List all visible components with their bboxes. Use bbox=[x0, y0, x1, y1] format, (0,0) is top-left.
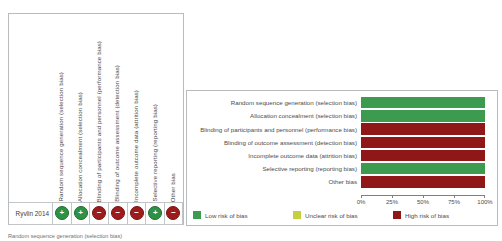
x-axis-tick-label: 0% bbox=[357, 199, 366, 205]
summary-column-header: Blinding of participants and personnel (… bbox=[89, 16, 108, 202]
summary-column-label: Selective reporting (reporting bias) bbox=[152, 103, 158, 202]
bar-track bbox=[361, 97, 485, 108]
summary-column-label: Allocation concealment (selection bias) bbox=[77, 91, 83, 202]
bar-segment bbox=[361, 123, 485, 134]
x-axis-tick bbox=[454, 195, 455, 198]
bar-category-label: Selective reporting (reporting bias) bbox=[193, 165, 361, 172]
risk-of-bias-figure: Random sequence generation (selection bi… bbox=[0, 0, 502, 241]
legend-item-unclear: Unclear risk of bias bbox=[293, 211, 393, 219]
summary-column-header: Selective reporting (reporting bias) bbox=[145, 16, 164, 202]
bar-category-label: Random sequence generation (selection bi… bbox=[193, 99, 361, 106]
x-axis-tick-label: 25% bbox=[386, 199, 398, 205]
legend-item-high: High risk of bias bbox=[393, 211, 493, 219]
bar-segment bbox=[361, 110, 485, 121]
judgement-low-icon: + bbox=[55, 206, 69, 220]
x-axis-tick-label: 100% bbox=[477, 199, 492, 205]
summary-column-header: Allocation concealment (selection bias) bbox=[71, 16, 90, 202]
summary-column-label: Blinding of participants and personnel (… bbox=[96, 40, 102, 202]
bar-segment bbox=[361, 137, 485, 148]
bar-category-label: Blinding of outcome assessment (detectio… bbox=[193, 139, 361, 146]
judgement-high-icon: − bbox=[111, 206, 125, 220]
bar-track bbox=[361, 137, 485, 148]
judgement-cell: − bbox=[89, 202, 108, 224]
bar-segment bbox=[361, 150, 485, 161]
summary-column-header: Random sequence generation (selection bi… bbox=[52, 16, 71, 202]
judgement-low-icon: + bbox=[148, 206, 162, 220]
summary-column-header: Blinding of outcome assessment (detectio… bbox=[108, 16, 127, 202]
legend-swatch-unclear-icon bbox=[293, 211, 301, 219]
bar-category-label: Incomplete outcome data (attrition bias) bbox=[193, 152, 361, 159]
bar-row: Blinding of participants and personnel (… bbox=[193, 123, 491, 135]
x-axis-tick-label: 50% bbox=[417, 199, 429, 205]
bar-segment bbox=[361, 163, 485, 174]
bar-segment bbox=[361, 176, 485, 187]
bar-row: Selective reporting (reporting bias) bbox=[193, 163, 491, 175]
judgement-high-icon: − bbox=[92, 206, 106, 220]
summary-study-row: Ryvlin 2014 ++−−−+− bbox=[9, 202, 183, 224]
legend-label: Low risk of bias bbox=[205, 212, 248, 219]
judgement-cell: + bbox=[145, 202, 164, 224]
bar-row: Incomplete outcome data (attrition bias) bbox=[193, 150, 491, 162]
bar-track bbox=[361, 110, 485, 121]
summary-column-label: Random sequence generation (selection bi… bbox=[58, 71, 64, 202]
legend-label: Unclear risk of bias bbox=[305, 212, 358, 219]
x-axis-tick bbox=[361, 195, 362, 198]
study-label: Ryvlin 2014 bbox=[9, 210, 52, 217]
bar-category-label: Blinding of participants and personnel (… bbox=[193, 126, 361, 133]
bar-track bbox=[361, 176, 485, 187]
judgement-cell: + bbox=[52, 202, 71, 224]
summary-column-headers: Random sequence generation (selection bi… bbox=[52, 16, 183, 202]
legend-swatch-low-icon bbox=[193, 211, 201, 219]
bar-track bbox=[361, 163, 485, 174]
x-axis-tick bbox=[423, 195, 424, 198]
summary-column-label: Incomplete outcome data (attrition bias) bbox=[133, 89, 139, 202]
judgement-low-icon: + bbox=[74, 206, 88, 220]
risk-of-bias-graph-panel: Random sequence generation (selection bi… bbox=[186, 90, 498, 226]
x-axis-tick bbox=[484, 195, 485, 198]
summary-column-label: Other bias bbox=[170, 172, 176, 202]
bar-category-label: Allocation concealment (selection bias) bbox=[193, 112, 361, 119]
legend-swatch-high-icon bbox=[393, 211, 401, 219]
judgement-cell: − bbox=[108, 202, 127, 224]
figure-caption: Random sequence generation (selection bi… bbox=[8, 233, 494, 239]
legend-label: High risk of bias bbox=[405, 212, 449, 219]
bar-category-label: Other bias bbox=[193, 178, 361, 185]
x-axis-tick-label: 75% bbox=[448, 199, 460, 205]
x-axis-tick bbox=[392, 195, 393, 198]
bar-segment bbox=[361, 97, 485, 108]
chart-legend: Low risk of biasUnclear risk of biasHigh… bbox=[193, 209, 493, 221]
judgement-cell: − bbox=[127, 202, 146, 224]
bar-track bbox=[361, 150, 485, 161]
risk-of-bias-summary-panel: Random sequence generation (selection bi… bbox=[8, 13, 184, 225]
summary-row-bottom-divider bbox=[9, 224, 183, 225]
bar-row: Random sequence generation (selection bi… bbox=[193, 97, 491, 109]
judgement-high-icon: − bbox=[130, 206, 144, 220]
bar-track bbox=[361, 123, 485, 134]
legend-item-low: Low risk of bias bbox=[193, 211, 293, 219]
judgement-cell: − bbox=[164, 202, 183, 224]
stacked-bar-chart: Random sequence generation (selection bi… bbox=[193, 97, 491, 193]
summary-column-header: Other bias bbox=[164, 16, 183, 202]
bar-row: Blinding of outcome assessment (detectio… bbox=[193, 137, 491, 149]
judgement-cell: + bbox=[71, 202, 90, 224]
judgement-high-icon: − bbox=[166, 206, 180, 220]
bar-row: Other bias bbox=[193, 176, 491, 188]
summary-column-label: Blinding of outcome assessment (detectio… bbox=[114, 64, 120, 202]
bar-row: Allocation concealment (selection bias) bbox=[193, 110, 491, 122]
summary-column-header: Incomplete outcome data (attrition bias) bbox=[127, 16, 146, 202]
